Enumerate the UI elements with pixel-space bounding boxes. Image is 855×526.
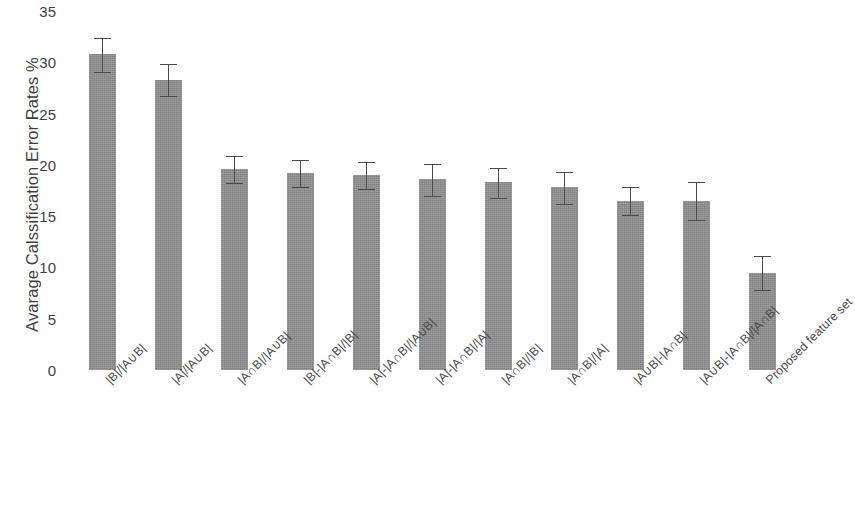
error-bar-cap-bottom: [622, 215, 639, 216]
error-bar: [432, 164, 433, 197]
error-bar-cap-top: [490, 168, 507, 169]
bar[interactable]: [551, 187, 578, 370]
y-axis-tick-label: 10: [0, 259, 56, 276]
bar-group[interactable]: [663, 0, 729, 371]
error-bar-cap-bottom: [424, 196, 441, 197]
error-bar: [498, 168, 499, 199]
plot-area: [62, 0, 822, 371]
bar[interactable]: [419, 179, 446, 370]
y-axis-tick-label: 15: [0, 208, 56, 225]
error-bar: [168, 64, 169, 97]
error-bar-cap-bottom: [94, 72, 111, 73]
error-bar: [234, 156, 235, 185]
error-bar-cap-bottom: [754, 290, 771, 291]
error-bar-cap-top: [160, 64, 177, 65]
bar-group[interactable]: [531, 0, 597, 371]
bar-group[interactable]: [465, 0, 531, 371]
error-bar-cap-top: [424, 164, 441, 165]
error-bar: [366, 162, 367, 191]
error-bar-cap-top: [556, 172, 573, 173]
error-bar: [300, 160, 301, 189]
error-bar-cap-bottom: [358, 189, 375, 190]
error-bar-cap-bottom: [490, 198, 507, 199]
error-bar-cap-bottom: [160, 96, 177, 97]
y-axis-tick-label: 20: [0, 156, 56, 173]
bar[interactable]: [617, 201, 644, 370]
bar[interactable]: [485, 182, 512, 370]
error-bar-cap-bottom: [292, 187, 309, 188]
y-axis-tick-label: 5: [0, 310, 56, 327]
y-axis-tick-label: 35: [0, 3, 56, 20]
y-axis-tick-label: 30: [0, 54, 56, 71]
error-bar-cap-bottom: [226, 183, 243, 184]
bar[interactable]: [683, 201, 710, 370]
bar[interactable]: [221, 169, 248, 370]
error-bar-cap-top: [226, 156, 243, 157]
bar[interactable]: [353, 175, 380, 370]
bar-group[interactable]: [399, 0, 465, 371]
error-bar-cap-bottom: [688, 220, 705, 221]
error-bar: [762, 256, 763, 291]
bar[interactable]: [155, 80, 182, 370]
error-bar-cap-top: [94, 38, 111, 39]
bar-group[interactable]: [267, 0, 333, 371]
error-bar: [630, 187, 631, 216]
error-bar-cap-top: [292, 160, 309, 161]
error-bar-cap-top: [754, 256, 771, 257]
bar-group[interactable]: [135, 0, 201, 371]
y-axis-tick-label: 25: [0, 105, 56, 122]
error-bar: [102, 38, 103, 73]
y-axis-tick-label: 0: [0, 362, 56, 379]
bar-group[interactable]: [597, 0, 663, 371]
error-bar: [696, 182, 697, 221]
bar-group[interactable]: [69, 0, 135, 371]
error-bar: [564, 172, 565, 205]
bar-group[interactable]: [333, 0, 399, 371]
error-bar-cap-top: [688, 182, 705, 183]
error-bar-cap-bottom: [556, 204, 573, 205]
error-bar-cap-top: [622, 187, 639, 188]
error-bar-cap-top: [358, 162, 375, 163]
x-axis-tick-labels: |B|/|A∪B||A|/|A∪B||A∩B|/|A∪B||B|-|A∩B|/|…: [62, 371, 822, 526]
bar[interactable]: [89, 54, 116, 370]
y-axis-tick-labels: 05101520253035: [0, 0, 62, 380]
bar-group[interactable]: [201, 0, 267, 371]
